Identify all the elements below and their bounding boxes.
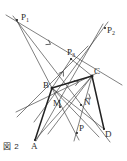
point-label-text: M [53,98,61,108]
point-label-p: P [79,124,84,133]
point-label-p3: P3 [67,48,75,57]
point-label-text: A [31,141,38,151]
point-label-d: D [105,130,112,139]
point-label-b: B [43,81,49,90]
point-label-text: P [79,123,84,133]
line-P1-P2 [6,15,122,85]
point-label-p1: P1 [21,13,29,22]
point-label-text: N [84,97,91,107]
point-label-subscript: 1 [26,17,29,23]
point-label-n: N [84,98,91,107]
vertex-p1 [16,19,18,21]
segment-B-N-ext [52,88,99,137]
geometry-figure: P1P2P3BCMNPAD 図 2 [0,0,127,161]
vertex-p3 [70,58,72,60]
point-label-subscript: 2 [112,30,115,36]
figure-caption: 図 2 [3,140,19,151]
point-label-text: D [105,129,112,139]
point-label-subscript: 3 [72,52,75,58]
point-label-a: A [31,142,38,151]
vertex-p2 [104,27,106,29]
vertex-p [76,132,78,134]
point-label-c: C [94,67,100,76]
line-P1-D [13,16,110,142]
point-label-m: M [53,99,61,108]
point-label-text: C [94,66,100,76]
vertex-n [80,104,82,106]
point-label-text: B [43,80,49,90]
vertex-b [51,87,54,90]
segments-group [6,15,122,142]
point-label-p2: P2 [107,26,115,35]
arrow-on-P1P2 [46,40,52,46]
